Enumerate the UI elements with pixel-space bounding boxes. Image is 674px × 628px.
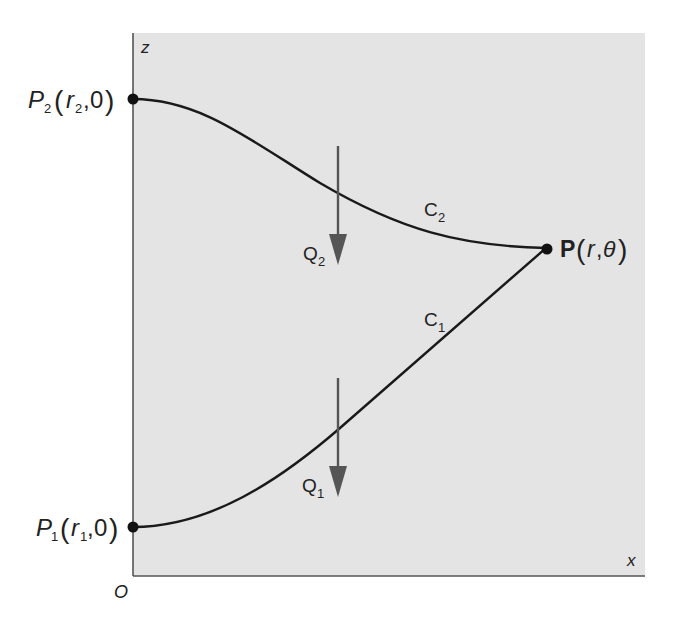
- point-p1-marker: [128, 522, 139, 533]
- svg-text:(: (: [576, 234, 586, 265]
- svg-text:r: r: [66, 86, 75, 113]
- svg-text:(: (: [60, 513, 70, 544]
- svg-text:θ: θ: [603, 236, 616, 262]
- svg-text:1: 1: [317, 486, 324, 501]
- svg-text:,: ,: [83, 86, 90, 113]
- origin-label: O: [114, 582, 128, 602]
- z-axis-label: z: [140, 38, 150, 57]
- svg-text:r: r: [587, 236, 596, 262]
- svg-text:2: 2: [44, 101, 51, 116]
- svg-text:): ): [109, 513, 118, 544]
- svg-text:): ): [105, 85, 114, 116]
- svg-text:2: 2: [318, 254, 325, 269]
- svg-text:P: P: [560, 236, 575, 262]
- svg-text:C: C: [424, 199, 438, 220]
- point-p-label: P ( r , θ ): [560, 234, 627, 265]
- svg-text:0: 0: [94, 514, 107, 541]
- svg-text:r: r: [71, 514, 80, 541]
- point-p-marker: [542, 244, 553, 255]
- svg-text:P: P: [36, 514, 52, 541]
- svg-text:,: ,: [87, 514, 94, 541]
- svg-text:2: 2: [75, 101, 82, 116]
- svg-text:P: P: [28, 86, 44, 113]
- svg-text:Q: Q: [302, 475, 317, 496]
- svg-text:,: ,: [596, 236, 602, 262]
- point-p2-label: P 2 ( r 2 , 0 ): [28, 85, 114, 116]
- svg-text:Q: Q: [303, 243, 318, 264]
- point-p1-label: P 1 ( r 1 , 0 ): [36, 513, 118, 544]
- svg-text:C: C: [424, 309, 438, 330]
- diagram-canvas: z x O P 2 ( r 2 , 0 ) P 1 ( r 1 , 0 ): [0, 0, 674, 628]
- svg-text:1: 1: [51, 529, 58, 544]
- plot-background: [133, 33, 645, 576]
- svg-text:0: 0: [90, 86, 103, 113]
- point-p2-marker: [128, 94, 139, 105]
- x-axis-label: x: [626, 551, 636, 570]
- svg-text:(: (: [54, 85, 64, 116]
- svg-text:2: 2: [438, 210, 445, 225]
- svg-text:): ): [618, 234, 627, 265]
- svg-text:1: 1: [438, 320, 445, 335]
